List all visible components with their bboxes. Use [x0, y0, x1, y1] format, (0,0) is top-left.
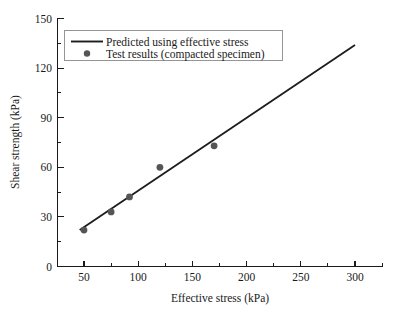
y-tick-label-90: 90 — [41, 112, 53, 124]
x-tick-label-200: 200 — [238, 271, 256, 283]
data-point-2 — [108, 209, 115, 216]
y-tick-label-150: 150 — [35, 13, 53, 25]
x-tick-label-50: 50 — [78, 271, 90, 283]
data-point-1 — [81, 227, 88, 234]
x-tick-label-300: 300 — [346, 271, 364, 283]
chart-legend: Predicted using effective stress Test re… — [65, 31, 283, 61]
x-tick-label-250: 250 — [292, 271, 310, 283]
data-point-5 — [211, 142, 218, 149]
legend-marker-swatch — [84, 50, 90, 56]
y-tick-label-30: 30 — [41, 211, 53, 223]
y-tick-label-60: 60 — [41, 161, 53, 173]
data-point-3 — [126, 194, 133, 201]
shear-strength-vs-effective-stress-chart: 0 30 60 90 120 150 Shear strength (kPa) — [0, 0, 405, 326]
legend-label-test-results: Test results (compacted specimen) — [106, 48, 265, 61]
y-tick-label-120: 120 — [35, 62, 53, 74]
chart-figure: 0 30 60 90 120 150 Shear strength (kPa) — [0, 0, 405, 326]
x-axis-title: Effective stress (kPa) — [171, 292, 269, 305]
x-tick-label-150: 150 — [184, 271, 202, 283]
y-axis-title: Shear strength (kPa) — [9, 95, 22, 189]
data-point-4 — [157, 164, 164, 171]
x-tick-label-100: 100 — [130, 271, 148, 283]
y-tick-label-0: 0 — [46, 261, 52, 273]
